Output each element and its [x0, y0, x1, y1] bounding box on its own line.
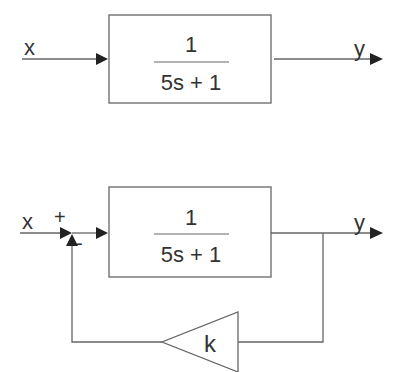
block-numerator: 1	[185, 205, 197, 230]
block-numerator: 1	[185, 32, 197, 57]
input-label: x	[22, 209, 33, 234]
block-denominator: 5s + 1	[161, 70, 222, 95]
output-label: y	[354, 36, 365, 61]
feedback-return-line	[72, 246, 162, 342]
input-arrow-icon	[96, 53, 108, 65]
block-input-arrow-icon	[96, 227, 108, 239]
open-loop-diagram: x 1 5s + 1 y	[22, 15, 383, 103]
input-label: x	[24, 35, 35, 60]
gain-triangle	[162, 312, 238, 372]
output-label: y	[354, 210, 365, 235]
block-diagram: x 1 5s + 1 y x + - 1 5s + 1 y k	[0, 0, 400, 372]
feedback-gain-label: k	[204, 330, 217, 357]
output-arrow-icon	[370, 53, 383, 65]
plus-sign: +	[54, 206, 66, 228]
minus-sign: -	[76, 232, 83, 254]
block-denominator: 5s + 1	[161, 242, 222, 267]
output-arrow-icon	[370, 227, 383, 239]
summing-plus-arrow-icon	[60, 227, 72, 239]
feedback-pickoff-line	[238, 233, 323, 342]
closed-loop-diagram: x + - 1 5s + 1 y k	[20, 187, 383, 372]
